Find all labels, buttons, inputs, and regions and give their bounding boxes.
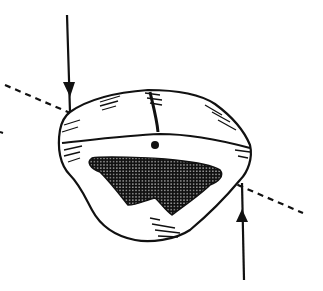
tooth-diagram bbox=[0, 0, 323, 291]
center-point bbox=[151, 141, 159, 149]
force-arrow-bottom-icon bbox=[236, 183, 248, 280]
force-arrow-top-icon bbox=[63, 15, 75, 112]
